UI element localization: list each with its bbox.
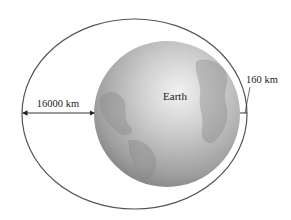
apogee-distance-label: 16000 km — [37, 98, 79, 109]
earth-label: Earth — [163, 90, 187, 102]
perigee-distance-label: 160 km — [246, 74, 278, 85]
orbit-diagram: 16000 km Earth 160 km — [0, 0, 291, 220]
earth-globe — [94, 41, 240, 187]
